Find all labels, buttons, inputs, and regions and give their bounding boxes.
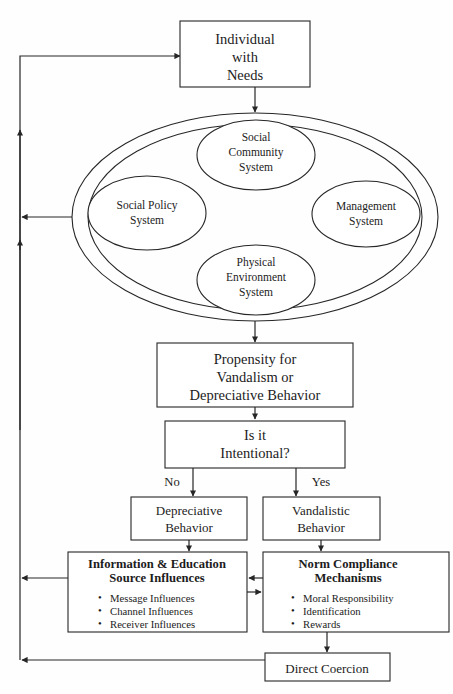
propensity-line-1: Propensity for (214, 351, 297, 367)
depreciative-line-1: Depreciative (156, 503, 223, 518)
information-bullet-1: Message Influences (110, 592, 195, 604)
flowchart-svg: Individual with Needs Social Community S… (0, 0, 453, 694)
information-bullet-2: Channel Influences (110, 605, 193, 617)
information-bullet-glyph-1: • (98, 591, 102, 603)
information-bullet-3: Receiver Influences (110, 618, 195, 630)
intentional-line-1: Is it (244, 427, 266, 443)
information-heading-2: Source Influences (109, 571, 204, 585)
norm-heading-1: Norm Compliance (299, 557, 398, 571)
norm-bullet-2: Identification (303, 605, 361, 617)
vandalistic-line-1: Vandalistic (292, 503, 350, 518)
norm-bullet-3: Rewards (303, 618, 340, 630)
node-social-policy-system (88, 176, 206, 250)
physical-environment-line-3: System (239, 286, 273, 299)
social-community-line-3: System (239, 161, 273, 174)
node-individual-line-3: Needs (227, 67, 264, 83)
physical-environment-line-2: Environment (226, 271, 287, 283)
node-management-system (312, 181, 420, 247)
social-policy-line-1: Social Policy (116, 199, 177, 212)
node-individual-line-2: with (232, 49, 259, 65)
node-individual-line-1: Individual (215, 31, 275, 47)
edge-label-yes: Yes (312, 475, 330, 489)
norm-bullet-glyph-3: • (291, 617, 295, 629)
information-heading-1: Information & Education (88, 557, 226, 571)
social-policy-line-2: System (130, 214, 164, 227)
vandalistic-line-2: Behavior (297, 520, 345, 535)
information-bullet-glyph-3: • (98, 617, 102, 629)
social-community-line-1: Social (242, 131, 271, 143)
intentional-line-2: Intentional? (220, 445, 289, 461)
norm-heading-2: Mechanisms (314, 571, 381, 585)
direct-coercion-label: Direct Coercion (285, 661, 369, 676)
propensity-line-2: Vandalism or (217, 369, 294, 385)
depreciative-line-2: Behavior (165, 520, 213, 535)
norm-bullet-1: Moral Responsibility (303, 592, 394, 604)
physical-environment-line-1: Physical (237, 256, 276, 269)
edge-label-no: No (164, 475, 179, 489)
norm-bullet-glyph-2: • (291, 604, 295, 616)
systems-group: Social Community System Social Policy Sy… (72, 113, 438, 321)
management-line-2: System (349, 215, 383, 228)
management-line-1: Management (336, 200, 397, 213)
information-bullet-glyph-2: • (98, 604, 102, 616)
propensity-line-3: Depreciative Behavior (190, 387, 321, 403)
norm-bullet-glyph-1: • (291, 591, 295, 603)
diagram-canvas: Individual with Needs Social Community S… (0, 0, 453, 694)
social-community-line-2: Community (229, 146, 284, 159)
